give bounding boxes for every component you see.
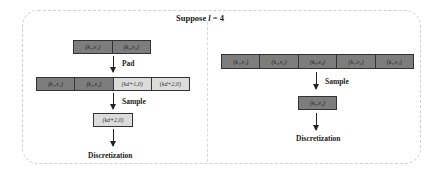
padded-cell: (k₂,v₂)	[75, 78, 113, 90]
sample-arrow-icon	[113, 93, 114, 109]
right-input-cell: (k₁,v₁)	[222, 55, 260, 68]
left-input-row: (k₁,v₁) (k₂,v₂)	[73, 40, 151, 54]
pad-label: Pad	[122, 59, 135, 68]
left-padded-row: (k₁,v₁) (k₂,v₂) (kd+1,0) (kd+2,0)	[36, 77, 190, 91]
title-suffix: = 4	[211, 13, 224, 23]
right-sample-label: Sample	[325, 77, 349, 86]
padded-cell: (k₁,v₁)	[37, 78, 75, 90]
left-input-cell: (k₂,v₂)	[113, 41, 151, 53]
right-input-cell: (k₅,v₅)	[376, 55, 413, 68]
right-sample-arrow-icon	[316, 72, 317, 89]
right-input-cell: (k₃,v₃)	[299, 55, 337, 68]
left-sampled-cell: (kd+2,0)	[94, 114, 132, 126]
diagram-title: Suppose l = 4	[150, 13, 250, 23]
left-sample-label: Sample	[122, 97, 146, 106]
padded-cell: (kd+2,0)	[152, 78, 189, 90]
right-input-cell: (k₂,v₂)	[260, 55, 298, 68]
left-sampled-cell-box: (kd+2,0)	[93, 113, 133, 127]
right-sampled-cell: (k₂,v₂)	[299, 97, 336, 109]
left-input-cell: (k₁,v₁)	[74, 41, 113, 53]
right-input-cell: (k₄,v₄)	[337, 55, 375, 68]
right-input-row: (k₁,v₁) (k₂,v₂) (k₃,v₃) (k₄,v₄) (k₅,v₅)	[221, 54, 414, 69]
right-discretization-arrow-icon	[316, 113, 317, 130]
pad-arrow-icon	[113, 56, 114, 72]
right-sampled-cell-box: (k₂,v₂)	[298, 96, 337, 110]
discretization-arrow-icon	[113, 129, 114, 146]
left-discretization-label: Discretization	[88, 151, 132, 160]
padded-cell: (kd+1,0)	[114, 78, 152, 90]
panel-divider	[207, 22, 208, 162]
right-discretization-label: Discretization	[296, 134, 340, 143]
title-prefix: Suppose	[176, 13, 208, 23]
